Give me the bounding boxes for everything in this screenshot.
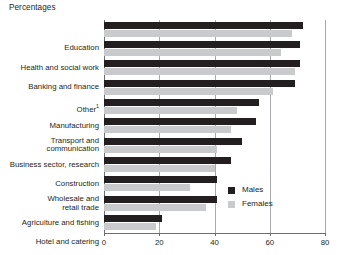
- bar-males: [104, 215, 162, 222]
- x-tick-label: 20: [155, 238, 164, 247]
- bar-group: [104, 60, 325, 79]
- x-tick-40: [215, 233, 216, 236]
- bar-females: [104, 223, 156, 230]
- category-label: Manufacturing: [0, 122, 99, 131]
- category-label: Transport andcommunication: [0, 137, 99, 154]
- bar-group: [104, 196, 325, 215]
- bar-females: [104, 126, 231, 133]
- x-tick-20: [159, 233, 160, 236]
- bar-group: [104, 41, 325, 60]
- legend-label: Males: [242, 185, 263, 194]
- category-label: Banking and finance: [0, 83, 99, 92]
- bar-males: [104, 176, 217, 183]
- category-label: Construction: [0, 180, 99, 189]
- gridline-80: [325, 20, 326, 233]
- bar-group: [104, 157, 325, 176]
- x-tick-80: [325, 233, 326, 236]
- x-tick-0: [104, 233, 105, 236]
- bar-males: [104, 157, 231, 164]
- bar-females: [104, 204, 206, 211]
- bar-group: [104, 118, 325, 137]
- category-label: Wholesale andretail trade: [0, 195, 99, 212]
- category-axis-labels: EducationHealth and social workBanking a…: [0, 20, 99, 233]
- bar-chart: Percentages EducationHealth and social w…: [0, 0, 341, 255]
- category-label: Health and social work: [0, 64, 99, 73]
- bar-males: [104, 41, 300, 48]
- bar-females: [104, 88, 273, 95]
- category-label: Other1: [0, 102, 99, 114]
- bar-females: [104, 107, 237, 114]
- legend-label: Females: [242, 199, 273, 208]
- bar-males: [104, 22, 303, 29]
- bar-males: [104, 80, 295, 87]
- bar-males: [104, 99, 259, 106]
- x-tick-label: 0: [102, 238, 106, 247]
- bar-males: [104, 138, 242, 145]
- legend-swatch: [228, 201, 235, 208]
- bar-group: [104, 99, 325, 118]
- x-tick-label: 60: [265, 238, 274, 247]
- footnote-marker: 1: [96, 103, 99, 109]
- bar-males: [104, 118, 256, 125]
- category-label: Business sector, research: [0, 161, 99, 170]
- x-tick-label: 40: [210, 238, 219, 247]
- bar-males: [104, 196, 217, 203]
- category-label: Hotel and catering: [0, 238, 99, 247]
- chart-title: Percentages: [9, 3, 56, 12]
- bar-group: [104, 80, 325, 99]
- x-tick-60: [270, 233, 271, 236]
- bar-females: [104, 30, 292, 37]
- bar-group: [104, 138, 325, 157]
- bar-females: [104, 184, 190, 191]
- category-label: Education: [0, 44, 99, 53]
- bar-group: [104, 176, 325, 195]
- bar-females: [104, 68, 295, 75]
- bar-males: [104, 60, 300, 67]
- bar-group: [104, 22, 325, 41]
- legend-swatch: [228, 187, 235, 194]
- x-tick-label: 80: [321, 238, 330, 247]
- bar-females: [104, 165, 215, 172]
- bar-females: [104, 49, 281, 56]
- category-label: Agriculture and fishing: [0, 219, 99, 228]
- bar-females: [104, 146, 217, 153]
- plot-area: [104, 20, 325, 233]
- bar-group: [104, 215, 325, 234]
